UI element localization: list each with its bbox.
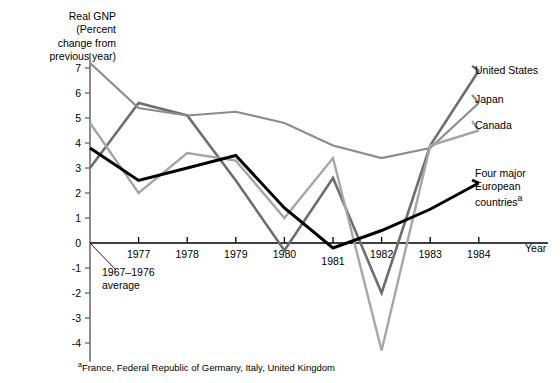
y-tick-label: -2 bbox=[72, 287, 81, 299]
y-tick-label: 7 bbox=[75, 62, 81, 74]
y-tick-label: -1 bbox=[72, 262, 81, 274]
y-tick-label: 0 bbox=[75, 237, 81, 249]
x-tick-label: 1979 bbox=[224, 248, 248, 260]
x-tick-label: 1982 bbox=[370, 248, 394, 260]
baseline-average-note: 1967–1976 average bbox=[102, 266, 155, 291]
series-line-japan bbox=[90, 63, 479, 158]
y-tick-label: 6 bbox=[75, 87, 81, 99]
y-tick-label: 1 bbox=[75, 212, 81, 224]
x-tick-label: 1978 bbox=[176, 248, 200, 260]
series-label-canada: Canada bbox=[475, 119, 512, 132]
x-axis-title: Year bbox=[525, 242, 546, 255]
series-line-canada bbox=[90, 123, 479, 351]
y-tick-label: 4 bbox=[75, 137, 81, 149]
y-tick-label: -3 bbox=[72, 312, 81, 324]
x-tick-label: 1977 bbox=[127, 248, 151, 260]
y-tick-label: 2 bbox=[75, 187, 81, 199]
chart-footnote: aFrance, Federal Republic of Germany, It… bbox=[78, 361, 335, 373]
x-tick-label: 1983 bbox=[419, 248, 443, 260]
x-tick-label: 1981 bbox=[321, 255, 345, 267]
series-group bbox=[90, 63, 479, 351]
series-label-japan: Japan bbox=[475, 93, 504, 106]
x-tick-label: 1984 bbox=[467, 248, 491, 260]
y-tick-label: 3 bbox=[75, 162, 81, 174]
chart-container: Real GNP (Percent change from previous y… bbox=[0, 0, 560, 383]
series-line-four-major-european-countries bbox=[90, 148, 479, 248]
y-tick-label: -4 bbox=[72, 337, 81, 349]
footnote-marker: a bbox=[518, 193, 523, 203]
series-label-four-major-european: Four major European countriesa bbox=[475, 167, 526, 208]
series-label-united-states: United States bbox=[475, 64, 538, 77]
y-tick-label: 5 bbox=[75, 112, 81, 124]
footnote-text: France, Federal Republic of Germany, Ita… bbox=[82, 362, 335, 373]
